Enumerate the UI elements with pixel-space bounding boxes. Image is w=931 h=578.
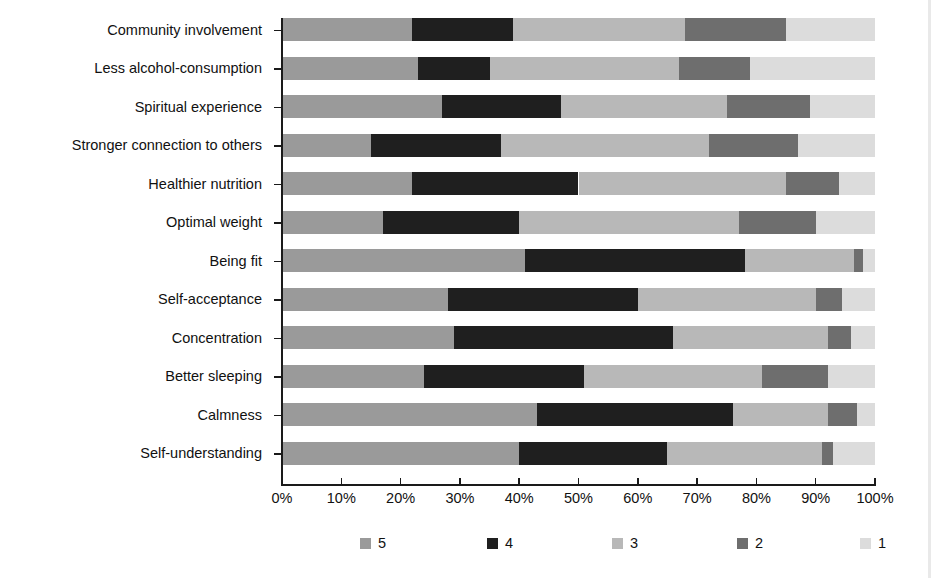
x-axis-tick-label: 30%: [430, 490, 490, 507]
bar-segment-5: [282, 365, 424, 388]
bar-row: [282, 365, 875, 388]
bar-segment-1: [816, 211, 875, 234]
legend-item-4[interactable]: 4: [487, 533, 513, 553]
x-axis-tick-label: 50%: [549, 490, 609, 507]
bar-segment-3: [638, 288, 816, 311]
legend-item-3[interactable]: 3: [612, 533, 638, 553]
y-axis-tick: [274, 68, 282, 70]
bar-segment-1: [786, 18, 875, 41]
y-axis-tick: [274, 261, 282, 263]
bar-segment-4: [442, 95, 561, 118]
bar-segment-2: [685, 18, 786, 41]
legend-swatch-icon: [487, 538, 498, 549]
bar-segment-1: [750, 57, 875, 80]
bar-segment-5: [282, 18, 412, 41]
legend-swatch-icon: [737, 538, 748, 549]
bar-segment-1: [857, 403, 875, 426]
legend-label: 1: [878, 535, 886, 551]
bar-segment-3: [745, 249, 855, 272]
bar-segment-1: [828, 365, 875, 388]
category-label: Better sleeping: [165, 367, 262, 385]
x-axis-tick-label: 100%: [845, 490, 905, 507]
legend-swatch-icon: [360, 538, 371, 549]
bar-segment-3: [561, 95, 727, 118]
bar-segment-3: [584, 365, 762, 388]
legend-label: 3: [630, 535, 638, 551]
bar-segment-4: [412, 172, 578, 195]
bar-segment-5: [282, 57, 418, 80]
legend-item-2[interactable]: 2: [737, 533, 763, 553]
bar-segment-5: [282, 288, 448, 311]
bar-segment-3: [501, 134, 709, 157]
bar-row: [282, 172, 875, 195]
bar-segment-2: [727, 95, 810, 118]
x-axis-tick: [400, 478, 402, 485]
x-axis-tick-label: 70%: [667, 490, 727, 507]
category-label: Stronger connection to others: [72, 136, 262, 154]
bar-segment-5: [282, 442, 519, 465]
bar-segment-5: [282, 134, 371, 157]
legend-item-5[interactable]: 5: [360, 533, 386, 553]
bar-segment-2: [762, 365, 827, 388]
x-axis-tick: [281, 478, 283, 485]
x-axis-tick-label: 80%: [726, 490, 786, 507]
legend-item-1[interactable]: 1: [860, 533, 886, 553]
bar-segment-2: [828, 326, 852, 349]
bar-segment-1: [798, 134, 875, 157]
bar-row: [282, 95, 875, 118]
x-axis-tick: [578, 478, 580, 485]
bar-segment-5: [282, 326, 454, 349]
category-label: Calmness: [198, 406, 262, 424]
x-axis-tick: [815, 478, 817, 485]
y-axis-tick: [274, 376, 282, 378]
category-label: Concentration: [172, 329, 262, 347]
y-axis-tick: [274, 415, 282, 417]
bar-segment-1: [839, 172, 875, 195]
bar-row: [282, 134, 875, 157]
bar-segment-4: [418, 57, 489, 80]
x-axis-tick: [341, 478, 343, 485]
stacked-bar-chart: Community involvementLess alcohol-consum…: [0, 0, 931, 578]
y-axis-tick: [274, 222, 282, 224]
y-axis-tick: [274, 145, 282, 147]
category-label: Spiritual experience: [135, 98, 262, 116]
bar-segment-2: [816, 288, 843, 311]
x-axis-tick-label: 10%: [311, 490, 371, 507]
bar-segment-5: [282, 95, 442, 118]
bar-segment-4: [448, 288, 638, 311]
bar-segment-3: [673, 326, 827, 349]
x-axis-tick: [459, 478, 461, 485]
bar-segment-2: [679, 57, 750, 80]
bar-row: [282, 288, 875, 311]
bar-segment-4: [519, 442, 667, 465]
y-axis-tick: [274, 30, 282, 32]
x-axis-tick-label: 0%: [252, 490, 312, 507]
category-label: Being fit: [210, 252, 262, 270]
legend-swatch-icon: [860, 538, 871, 549]
bar-segment-2: [854, 249, 863, 272]
category-label: Less alcohol-consumption: [94, 59, 262, 77]
y-axis-tick: [274, 453, 282, 455]
bar-segment-5: [282, 403, 537, 426]
category-axis-labels: Community involvementLess alcohol-consum…: [0, 18, 272, 480]
bar-segment-1: [851, 326, 875, 349]
x-axis-tick: [874, 478, 876, 485]
bar-row: [282, 326, 875, 349]
bar-segment-3: [579, 172, 787, 195]
bar-segment-3: [519, 211, 738, 234]
bar-segment-3: [667, 442, 821, 465]
y-axis-tick: [274, 184, 282, 186]
legend-label: 2: [755, 535, 763, 551]
legend-label: 4: [505, 535, 513, 551]
bar-segment-3: [513, 18, 685, 41]
bar-segment-4: [371, 134, 501, 157]
y-axis-tick: [274, 338, 282, 340]
bar-segment-2: [786, 172, 839, 195]
bar-segment-2: [822, 442, 834, 465]
x-axis-tick-label: 60%: [608, 490, 668, 507]
bar-segment-5: [282, 249, 525, 272]
y-axis-tick: [274, 107, 282, 109]
bar-segment-2: [828, 403, 858, 426]
bar-segment-3: [490, 57, 680, 80]
x-axis-tick-label: 90%: [786, 490, 846, 507]
